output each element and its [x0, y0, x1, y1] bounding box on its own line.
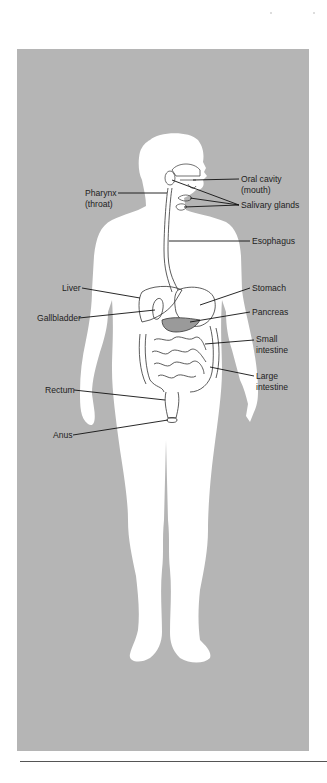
label-small-intestine: Small intestine: [256, 334, 288, 355]
label-line: intestine: [256, 345, 288, 356]
body-silhouette: [80, 133, 258, 662]
label-line: Oral cavity: [241, 174, 282, 185]
label-salivary-glands: Salivary glands: [241, 200, 299, 211]
label-line: Large: [256, 371, 288, 382]
label-line: Liver: [62, 283, 81, 294]
label-oral-cavity: Oral cavity (mouth): [241, 174, 282, 195]
label-line: Small: [256, 334, 288, 345]
label-stomach: Stomach: [252, 283, 286, 294]
label-line: Rectum: [45, 385, 75, 396]
label-line: (mouth): [241, 185, 282, 196]
label-line: Salivary glands: [241, 200, 299, 211]
bottom-rule-divider: [20, 761, 327, 762]
label-line: intestine: [256, 382, 288, 393]
label-anus: Anus: [53, 430, 73, 441]
label-line: Gallbladder: [37, 313, 81, 324]
label-line: Anus: [53, 430, 73, 441]
label-esophagus: Esophagus: [252, 236, 295, 247]
label-pancreas: Pancreas: [252, 307, 288, 318]
label-line: (throat): [85, 199, 117, 210]
label-line: Pancreas: [252, 307, 288, 318]
label-rectum: Rectum: [45, 385, 75, 396]
label-pharynx: Pharynx (throat): [85, 188, 117, 209]
label-liver: Liver: [62, 283, 81, 294]
label-large-intestine: Large intestine: [256, 371, 288, 392]
label-line: Esophagus: [252, 236, 295, 247]
label-gallbladder: Gallbladder: [37, 313, 81, 324]
label-line: Pharynx: [85, 188, 117, 199]
label-line: Stomach: [252, 283, 286, 294]
